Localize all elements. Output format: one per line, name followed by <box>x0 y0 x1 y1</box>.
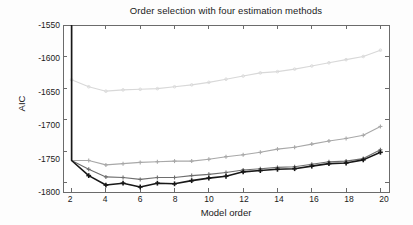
x-tick-label: 2 <box>60 194 80 204</box>
x-tick-label: 20 <box>374 194 394 204</box>
x-tick-label: 10 <box>199 194 219 204</box>
x-tick-label: 12 <box>234 194 254 204</box>
x-tick-label: 8 <box>165 194 185 204</box>
figure-canvas: Order selection with four estimation met… <box>0 0 413 225</box>
x-tick-label: 14 <box>269 194 289 204</box>
x-tick-label: 6 <box>130 194 150 204</box>
x-tick-label-group: 2 4 6 8 10 12 14 16 18 20 <box>0 0 413 225</box>
x-tick-label: 4 <box>95 194 115 204</box>
x-tick-label: 16 <box>304 194 324 204</box>
x-tick-label: 18 <box>339 194 359 204</box>
